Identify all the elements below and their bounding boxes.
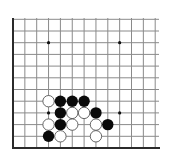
white-stone[interactable] [43,119,54,130]
white-stone[interactable] [43,96,54,107]
go-board[interactable] [0,0,169,160]
black-stone[interactable] [67,96,78,107]
white-stone[interactable] [78,107,89,118]
white-stone[interactable] [90,131,101,142]
black-stone[interactable] [55,107,66,118]
star-point-icon [118,41,121,44]
black-stone[interactable] [90,107,101,118]
white-stone[interactable] [55,131,66,142]
black-stone[interactable] [43,131,54,142]
white-stone[interactable] [67,107,78,118]
star-point-icon [47,111,50,114]
grid-lines [13,18,159,148]
star-point-icon [118,111,121,114]
black-stone[interactable] [78,96,89,107]
black-stone[interactable] [102,119,113,130]
black-stone[interactable] [55,96,66,107]
board-edges [12,18,160,149]
black-stone[interactable] [55,119,66,130]
white-stone[interactable] [67,119,78,130]
white-stone[interactable] [90,119,101,130]
star-point-icon [47,41,50,44]
go-board-canvas[interactable] [0,0,169,160]
stones [43,96,114,143]
